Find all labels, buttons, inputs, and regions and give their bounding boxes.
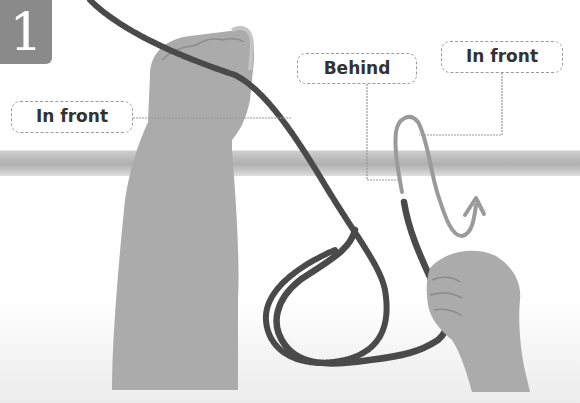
label-in-front-right: In front [441,41,563,73]
rope-lower [277,202,447,363]
label-behind: Behind [297,53,417,84]
left-arm [112,28,254,390]
knot-instruction-step: 1 In front Behind In front [0,0,580,403]
label-in-front-left: In front [11,101,133,133]
step-number-badge: 1 [0,0,52,64]
right-hand [427,251,530,392]
